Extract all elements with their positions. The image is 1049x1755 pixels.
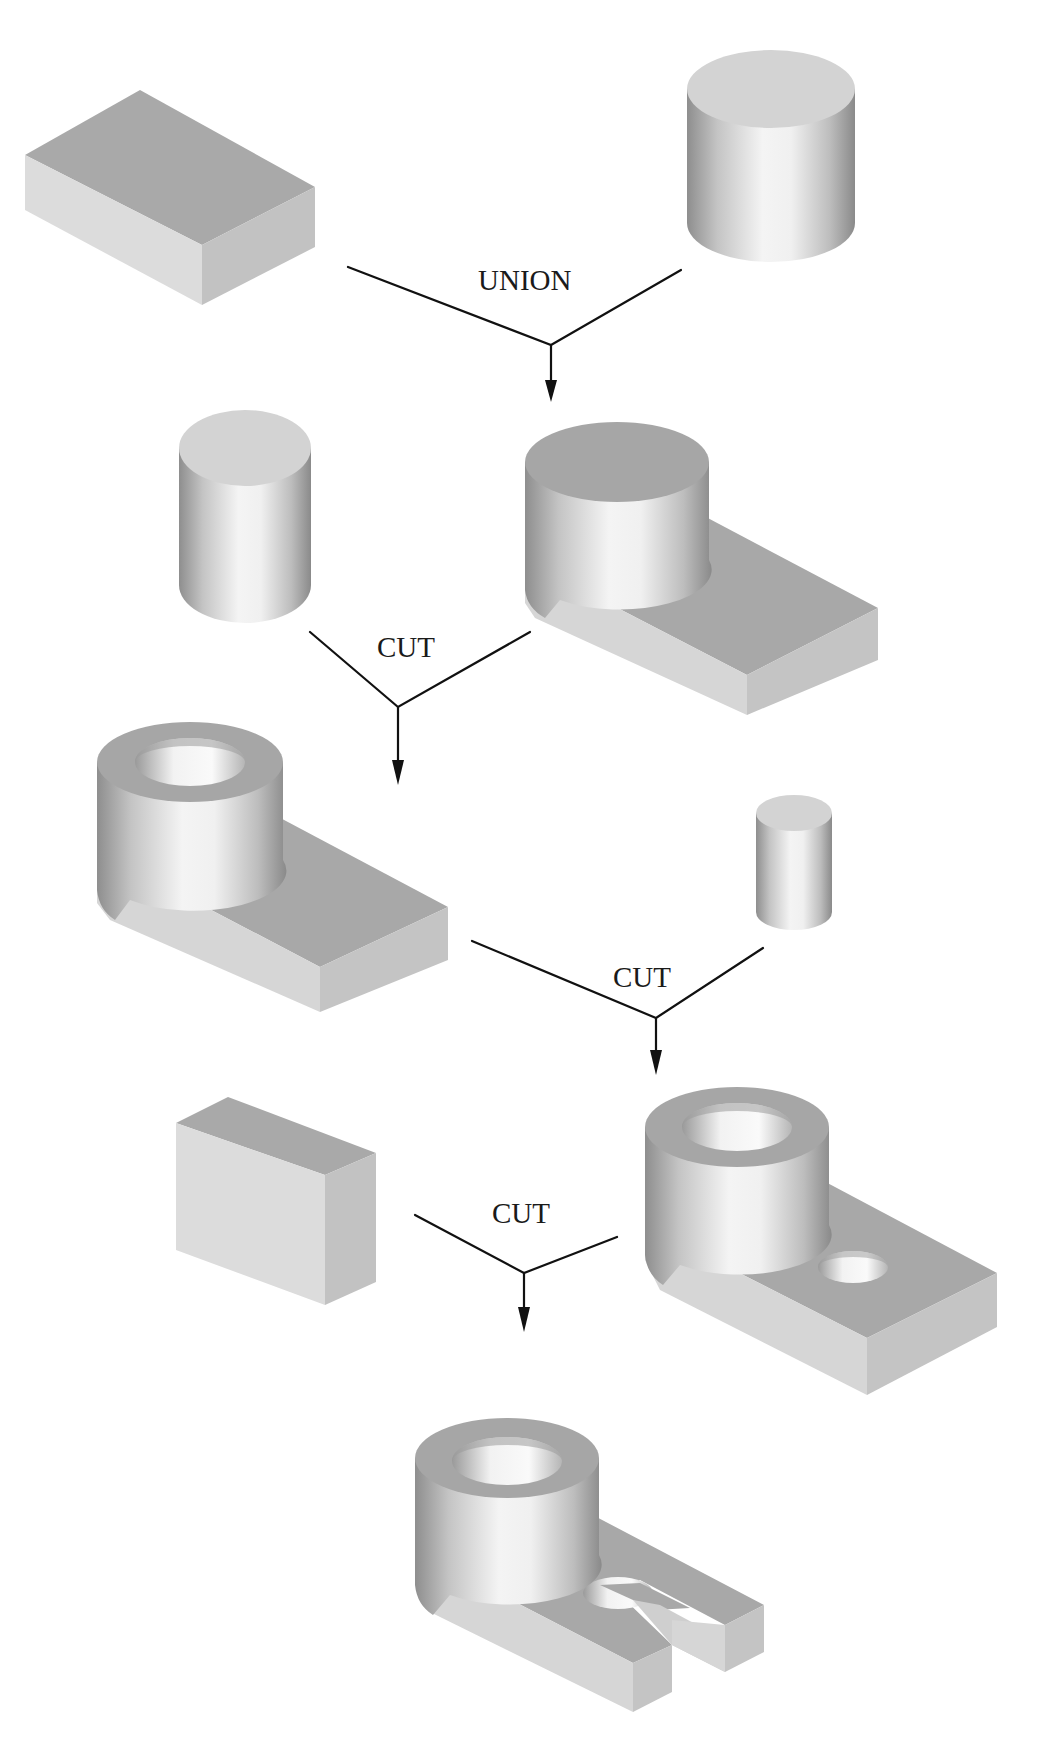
block-1 (25, 90, 315, 305)
cut-connector-3: CUT (415, 1197, 617, 1332)
small-cylinder (756, 795, 832, 930)
cut-label-2: CUT (613, 961, 671, 993)
union-result-part (525, 422, 878, 715)
cut2-result-part (645, 1087, 997, 1395)
csg-boolean-diagram: UNION CUT CUT (0, 0, 1049, 1755)
cut-label-1: CUT (377, 631, 435, 663)
cut-connector-2: CUT (472, 941, 763, 1075)
union-connector: UNION (348, 264, 681, 402)
cut-label-3: CUT (492, 1197, 550, 1229)
block-2 (176, 1097, 376, 1305)
final-slotted-bracket (415, 1418, 764, 1712)
cut-connector-1: CUT (310, 631, 530, 785)
cylinder-1 (687, 50, 855, 262)
union-label: UNION (478, 264, 571, 296)
cylinder-2 (179, 410, 311, 623)
